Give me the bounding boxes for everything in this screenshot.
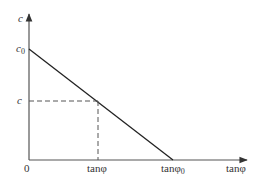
tanphi0-main: tanφ bbox=[161, 162, 181, 174]
y-axis-label: c bbox=[18, 13, 23, 24]
diagram-canvas bbox=[0, 0, 261, 192]
tanphi-tick-label: tanφ bbox=[87, 163, 107, 174]
c-label: c bbox=[17, 95, 22, 106]
x-axis-label: tanφ bbox=[226, 163, 246, 174]
c0-sub: 0 bbox=[21, 47, 25, 56]
relation-line bbox=[29, 49, 173, 160]
tanphi0-sub: 0 bbox=[181, 167, 185, 176]
tanphi0-tick-label: tanφ0 bbox=[161, 163, 185, 176]
origin-label: 0 bbox=[24, 163, 30, 174]
c0-label: c0 bbox=[16, 43, 25, 56]
